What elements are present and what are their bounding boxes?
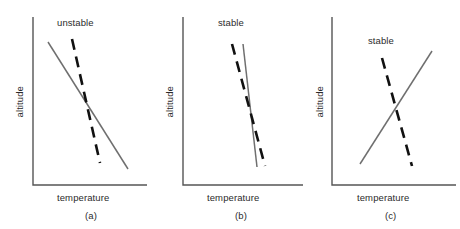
panel-c-caption: (c) — [385, 211, 396, 221]
panel-b: stable temperature altitude (b) — [150, 0, 303, 229]
panel-c-regime-label: stable — [368, 36, 394, 46]
panel-c: stable temperature altitude (c) — [300, 0, 453, 229]
panel-b-environmental-lapse-line — [243, 44, 257, 167]
panel-a-axes — [33, 17, 147, 185]
panel-b-x-axis-label: temperature — [207, 193, 259, 203]
panel-b-y-axis-label: altitude — [165, 80, 175, 124]
panel-a-regime-label: unstable — [57, 18, 94, 28]
panel-b-caption: (b) — [235, 211, 247, 221]
panel-a-adiabatic-lapse-line — [72, 39, 100, 163]
panel-c-environmental-lapse-line — [360, 51, 432, 164]
panel-b-axes — [183, 17, 303, 185]
panel-c-adiabatic-lapse-line — [382, 58, 412, 166]
lapse-rate-figure: unstable temperature altitude (a) stable… — [0, 0, 460, 229]
panel-a-x-axis-label: temperature — [57, 193, 109, 203]
panel-a-caption: (a) — [85, 211, 97, 221]
panel-b-regime-label: stable — [218, 18, 244, 28]
panel-c-x-axis-label: temperature — [357, 193, 409, 203]
panel-b-adiabatic-lapse-line — [232, 44, 265, 166]
panel-c-y-axis-label: altitude — [315, 80, 325, 124]
panel-a-environmental-lapse-line — [48, 42, 128, 169]
panel-a: unstable temperature altitude (a) — [0, 0, 153, 229]
panel-a-y-axis-label: altitude — [15, 80, 25, 124]
